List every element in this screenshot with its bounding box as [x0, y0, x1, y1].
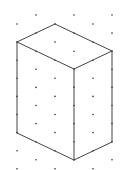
prism-edges	[17, 24, 112, 160]
isometric-prism-diagram	[0, 0, 135, 170]
grid-dot	[35, 14, 37, 16]
grid-dot	[92, 23, 94, 25]
grid-dot	[54, 41, 56, 43]
dot-grid	[16, 14, 113, 169]
grid-dot	[92, 78, 94, 80]
grid-dot	[92, 114, 94, 116]
prism-edge	[17, 24, 55, 42]
prism-edge	[74, 51, 112, 69]
grid-dot	[54, 168, 56, 170]
grid-dot	[54, 132, 56, 134]
grid-dot	[35, 87, 37, 89]
grid-dot	[16, 168, 18, 170]
grid-dot	[16, 150, 18, 152]
prism-edge	[55, 24, 112, 51]
grid-dot	[54, 78, 56, 80]
grid-dot	[92, 96, 94, 98]
prism-edge	[17, 42, 74, 69]
grid-dot	[54, 96, 56, 98]
grid-dot	[73, 50, 75, 52]
grid-dot	[16, 23, 18, 25]
grid-dot	[35, 159, 37, 161]
prism-edge	[17, 133, 74, 160]
grid-dot	[111, 32, 113, 34]
grid-dot	[111, 159, 113, 161]
grid-dot	[35, 123, 37, 125]
prism-edge	[74, 142, 112, 160]
grid-dot	[111, 14, 113, 16]
grid-dot	[54, 114, 56, 116]
grid-dot	[35, 105, 37, 107]
grid-dot	[92, 168, 94, 170]
grid-dot	[73, 14, 75, 16]
grid-dot	[92, 132, 94, 134]
grid-dot	[35, 69, 37, 71]
